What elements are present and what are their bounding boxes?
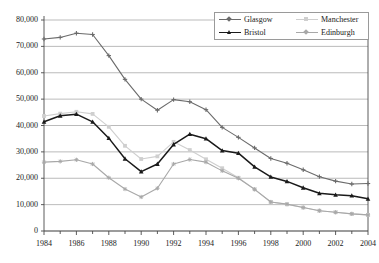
- legend-marker-glasgow: [219, 15, 241, 24]
- y-axis-tick-label: 0: [0, 226, 38, 235]
- x-axis-ticks: [44, 231, 368, 235]
- x-axis-tick-label: 1998: [255, 239, 287, 248]
- legend-entry-glasgow: Glasgow: [215, 15, 292, 24]
- x-axis-tick-label: 1990: [125, 239, 157, 248]
- legend-marker-edinburgh: [296, 28, 318, 37]
- x-axis-tick-label: 1986: [60, 239, 92, 248]
- legend-label-manchester: Manchester: [321, 15, 358, 24]
- y-axis-tick-label: 10,000: [0, 200, 38, 209]
- legend-marker-manchester: [296, 15, 318, 24]
- x-axis-tick-label: 2000: [287, 239, 319, 248]
- series-layer: [42, 31, 371, 217]
- axes: [41, 16, 368, 231]
- legend-marker-bristol: [219, 28, 241, 37]
- legend-entry-bristol: Bristol: [215, 28, 292, 37]
- y-axis-tick-label: 40,000: [0, 121, 38, 130]
- line-chart: 010,00020,00030,00040,00050,00060,00070,…: [0, 0, 379, 263]
- x-axis-tick-label: 1988: [93, 239, 125, 248]
- x-axis-tick-label: 1992: [158, 239, 190, 248]
- y-axis-tick-label: 30,000: [0, 147, 38, 156]
- legend: Glasgow Manchester Bristol Edinburgh: [214, 12, 369, 40]
- x-axis-tick-label: 1994: [190, 239, 222, 248]
- y-axis-tick-label: 60,000: [0, 68, 38, 77]
- legend-label-glasgow: Glasgow: [244, 15, 272, 24]
- series-bristol: [42, 112, 371, 201]
- y-axis-tick-label: 70,000: [0, 41, 38, 50]
- legend-label-bristol: Bristol: [244, 28, 266, 37]
- x-axis-tick-label: 2002: [320, 239, 352, 248]
- legend-entry-edinburgh: Edinburgh: [292, 28, 369, 37]
- legend-entry-manchester: Manchester: [292, 15, 369, 24]
- legend-label-edinburgh: Edinburgh: [321, 28, 355, 37]
- y-axis-tick-label: 50,000: [0, 94, 38, 103]
- x-axis-tick-label: 1996: [222, 239, 254, 248]
- x-axis-tick-label: 2004: [352, 239, 379, 248]
- y-axis-tick-label: 80,000: [0, 15, 38, 24]
- series-edinburgh: [42, 157, 370, 217]
- y-axis-tick-label: 20,000: [0, 173, 38, 182]
- x-axis-tick-label: 1984: [28, 239, 60, 248]
